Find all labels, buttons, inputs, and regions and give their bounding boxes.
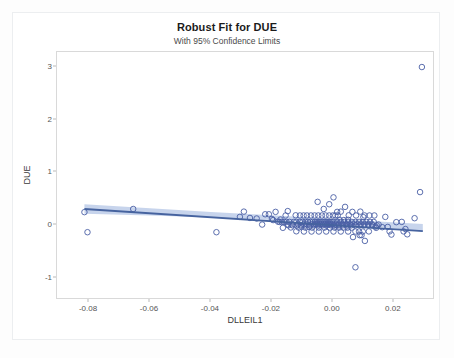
y-tick-label: 1: [48, 167, 52, 176]
screenshot-root: Robust Fit for DUE With 95% Confidence L…: [0, 0, 454, 358]
y-tick-label: -1: [45, 272, 52, 281]
y-tick-mark: [53, 171, 56, 172]
x-tick-mark: [331, 299, 332, 302]
y-axis-label: DUE: [22, 165, 32, 184]
chart-title: Robust Fit for DUE: [13, 21, 441, 33]
chart-subtitle: With 95% Confidence Limits: [13, 36, 441, 46]
x-tick-label: -0.08: [79, 304, 97, 313]
x-tick-mark: [88, 299, 89, 302]
y-tick-mark: [53, 65, 56, 66]
y-tick-mark: [53, 118, 56, 119]
x-tick-mark: [148, 299, 149, 302]
axes-layer: -10123 -0.08-0.06-0.04-0.020.000.02: [56, 51, 434, 299]
y-tick-mark: [53, 224, 56, 225]
x-tick-mark: [392, 299, 393, 302]
x-tick-label: -0.02: [262, 304, 280, 313]
y-tick-label: 3: [48, 61, 52, 70]
x-tick-label: 0.02: [385, 304, 401, 313]
y-tick-mark: [53, 276, 56, 277]
x-axis-label: DLLEIL1: [56, 315, 434, 325]
x-tick-mark: [209, 299, 210, 302]
x-tick-label: 0.00: [324, 304, 340, 313]
x-tick-label: -0.04: [201, 304, 219, 313]
chart-card: Robust Fit for DUE With 95% Confidence L…: [12, 12, 440, 340]
x-tick-mark: [270, 299, 271, 302]
y-tick-label: 0: [48, 220, 52, 229]
y-tick-label: 2: [48, 114, 52, 123]
x-tick-label: -0.06: [140, 304, 158, 313]
